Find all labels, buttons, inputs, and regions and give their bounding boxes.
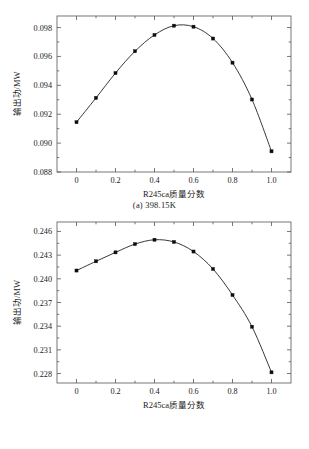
- x-tick-label: 0.4: [149, 176, 159, 185]
- y-axis-label: 输出功/MW: [12, 72, 22, 117]
- data-point-marker: [231, 61, 234, 64]
- y-tick-label: 0.234: [34, 322, 52, 331]
- data-point-marker: [153, 33, 156, 36]
- y-tick-label: 0.098: [34, 24, 52, 33]
- data-point-marker: [114, 251, 117, 254]
- data-point-marker: [172, 240, 175, 243]
- y-tick-label: 0.243: [34, 251, 52, 260]
- plot-frame: [57, 16, 291, 172]
- y-tick-label: 0.237: [34, 299, 52, 308]
- data-point-marker: [270, 371, 273, 374]
- x-tick-label: 0: [74, 387, 78, 396]
- chart-a: 00.20.40.60.81.00.0880.0900.0920.0940.09…: [0, 0, 309, 200]
- data-point-marker: [250, 98, 253, 101]
- data-point-marker: [94, 260, 97, 263]
- data-point-marker: [133, 243, 136, 246]
- figure-panel-a: 00.20.40.60.81.00.0880.0900.0920.0940.09…: [0, 0, 309, 215]
- figure-caption-a: (a) 398.15K: [0, 200, 309, 210]
- data-line: [77, 240, 272, 373]
- data-point-marker: [153, 238, 156, 241]
- x-tick-label: 0.6: [188, 176, 198, 185]
- x-tick-label: 0.2: [110, 387, 120, 396]
- x-tick-label: 0: [74, 176, 78, 185]
- data-point-marker: [211, 267, 214, 270]
- x-axis-label: R245ca质量分数: [143, 189, 205, 199]
- y-tick-label: 0.240: [34, 275, 52, 284]
- y-tick-label: 0.246: [34, 227, 52, 236]
- x-tick-label: 0.6: [188, 387, 198, 396]
- data-point-marker: [75, 121, 78, 124]
- data-point-marker: [133, 50, 136, 53]
- x-tick-label: 0.4: [149, 387, 159, 396]
- data-point-marker: [192, 250, 195, 253]
- chart-b: 00.20.40.60.81.00.2280.2310.2340.2370.24…: [0, 215, 309, 425]
- data-point-marker: [192, 25, 195, 28]
- x-axis-label: R245ca质量分数: [143, 400, 205, 410]
- y-tick-label: 0.088: [34, 168, 52, 177]
- x-tick-label: 0.2: [110, 176, 120, 185]
- x-tick-label: 0.8: [227, 176, 237, 185]
- figure-panel-b: 00.20.40.60.81.00.2280.2310.2340.2370.24…: [0, 215, 309, 449]
- data-point-marker: [231, 293, 234, 296]
- x-tick-label: 1.0: [266, 387, 276, 396]
- y-axis-label: 输出功/MW: [12, 280, 22, 325]
- data-point-marker: [75, 269, 78, 272]
- x-tick-label: 1.0: [266, 176, 276, 185]
- data-point-marker: [211, 37, 214, 40]
- y-tick-label: 0.094: [34, 81, 52, 90]
- data-point-marker: [94, 96, 97, 99]
- y-tick-label: 0.092: [34, 110, 52, 119]
- x-tick-label: 0.8: [227, 387, 237, 396]
- data-point-marker: [114, 72, 117, 75]
- y-tick-label: 0.231: [34, 346, 52, 355]
- y-tick-label: 0.090: [34, 139, 52, 148]
- y-tick-label: 0.096: [34, 52, 52, 61]
- data-line: [77, 25, 272, 152]
- data-point-marker: [250, 325, 253, 328]
- plot-frame: [57, 222, 291, 383]
- data-point-marker: [172, 24, 175, 27]
- y-tick-label: 0.228: [34, 370, 52, 379]
- data-point-marker: [270, 150, 273, 153]
